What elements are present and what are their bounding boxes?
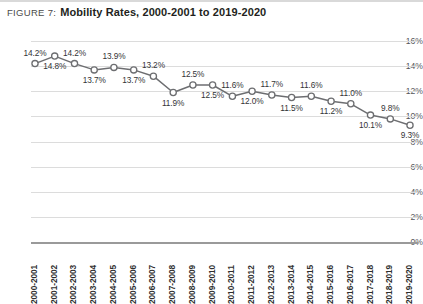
data-point-label: 11.2% — [320, 106, 342, 116]
data-point-marker — [289, 94, 295, 100]
data-point-label: 11.0% — [340, 88, 362, 98]
data-point-marker — [348, 101, 354, 107]
x-axis-tick-label: 2014-2015 — [305, 265, 316, 304]
x-axis-tick-label: 2005-2006 — [128, 265, 139, 304]
x-axis-tick-label: 2002-2003 — [68, 265, 79, 304]
data-point-marker — [91, 67, 97, 73]
x-axis-tick-label: 2001-2002 — [49, 265, 60, 304]
data-point-label: 13.7% — [83, 75, 106, 85]
data-point-marker — [71, 61, 77, 67]
figure-caption: FIGURE 7:Mobility Rates, 2000-2001 to 20… — [7, 6, 266, 18]
data-point-label: 14.8% — [43, 61, 66, 71]
data-point-label: 11.6% — [221, 80, 243, 90]
data-point-marker — [111, 64, 117, 70]
x-axis-tick-label: 2012-2013 — [266, 265, 277, 304]
x-axis-tick-label: 2019-2020 — [404, 265, 415, 304]
x-axis-tick-label: 2015-2016 — [325, 265, 336, 304]
data-point-marker — [190, 82, 196, 88]
data-point-marker — [210, 82, 216, 88]
data-point-label: 11.7% — [261, 79, 283, 89]
data-point-marker — [32, 61, 38, 67]
data-point-label: 10.1% — [359, 120, 382, 130]
x-axis-tick-label: 2000-2001 — [29, 265, 40, 304]
data-point-label: 14.2% — [23, 48, 46, 58]
data-point-marker — [150, 73, 156, 79]
data-point-label: 11.5% — [280, 103, 302, 113]
figure-number-label: FIGURE 7: — [7, 7, 56, 18]
x-axis-tick-label: 2006-2007 — [147, 265, 158, 304]
data-point-marker — [328, 98, 334, 104]
data-point-label: 12.5% — [201, 90, 224, 100]
data-point-marker — [249, 88, 255, 94]
data-point-marker — [269, 92, 275, 98]
x-axis-tick-label: 2018-2019 — [384, 265, 395, 304]
data-point-marker — [131, 67, 137, 73]
data-point-label: 14.2% — [63, 48, 86, 58]
data-point-marker — [170, 89, 176, 95]
data-point-label: 11.6% — [300, 80, 322, 90]
data-point-label: 12.5% — [181, 69, 204, 79]
x-axis-tick-label: 2011-2012 — [246, 265, 257, 304]
data-point-marker — [229, 93, 235, 99]
x-axis-tick-label: 2008-2009 — [187, 265, 198, 304]
x-axis-tick-label: 2004-2005 — [108, 265, 119, 304]
data-point-label: 11.9% — [162, 98, 184, 108]
data-point-marker — [308, 93, 314, 99]
data-point-marker — [387, 116, 393, 122]
figure-title: Mobility Rates, 2000-2001 to 2019-2020 — [60, 6, 266, 18]
figure-top-divider — [0, 0, 423, 2]
x-axis-tick-label: 2009-2010 — [207, 265, 218, 304]
data-point-label: 13.2% — [142, 60, 165, 70]
x-axis-tick-label: 2013-2014 — [286, 265, 297, 304]
data-point-label: 12.0% — [241, 96, 264, 106]
x-axis-tick-label: 2007-2008 — [167, 265, 178, 304]
x-axis-tick-label: 2003-2004 — [88, 265, 99, 304]
chart-plot-area: 16%14%12%10%8%6%4%2%0% 14.2%14.8%14.2%13… — [0, 33, 423, 251]
data-point-label: 13.9% — [102, 51, 125, 61]
data-point-marker — [367, 112, 373, 118]
data-point-label: 9.8% — [381, 103, 400, 113]
data-point-marker — [407, 122, 413, 128]
x-axis-tick-label: 2017-2018 — [365, 265, 376, 304]
x-axis-group: 2000-20012001-20022002-20032003-20042004… — [0, 251, 423, 304]
x-axis-tick-label: 2016-2017 — [345, 265, 356, 304]
data-point-marker — [52, 53, 58, 59]
data-point-label: 13.7% — [122, 75, 145, 85]
data-point-label: 9.3% — [401, 130, 420, 140]
figure-panel: FIGURE 7:Mobility Rates, 2000-2001 to 20… — [0, 0, 423, 304]
x-axis-tick-label: 2010-2011 — [226, 265, 237, 304]
